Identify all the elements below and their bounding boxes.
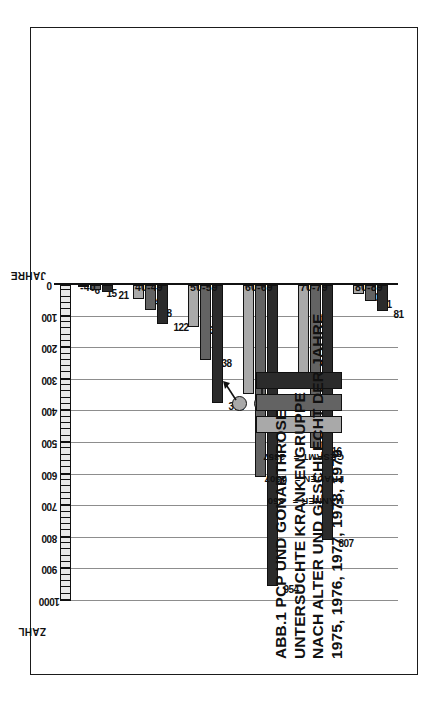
bar-leader-line: [193, 327, 194, 328]
value-axis-tick: [60, 315, 71, 317]
value-axis-tick-label: 1000: [39, 596, 60, 607]
gridline: [71, 600, 398, 601]
bar-leader-line: [217, 402, 218, 403]
gridline: [71, 569, 398, 570]
mars-arrow-icon: [222, 377, 240, 403]
value-axis-tick-label: 400: [42, 406, 58, 417]
bar-value-label: 81: [394, 308, 404, 319]
figure-title-line-1: ABB.1 PCP UND GONARTHROSE: [272, 259, 291, 659]
value-axis-tick: [60, 568, 71, 570]
value-axis-tick: [60, 600, 71, 602]
figure-title-line-4: 1975, 1976, 1977, 1978, 1979: [328, 259, 347, 659]
value-axis-tick-label: 500: [42, 438, 58, 449]
figure-title-line-3: NACH ALTER UND GESCHLECHT DER JAHRE: [309, 259, 328, 659]
bar-frauen-50-59: [200, 285, 211, 360]
bar-leader-line: [107, 291, 108, 292]
value-axis-tick-label: 200: [42, 343, 58, 354]
category-label-40-49: 40-49: [135, 281, 163, 293]
category-label--40: -40: [80, 281, 96, 293]
bar-leader-line: [138, 298, 139, 299]
bar-value-label: 122: [174, 321, 189, 332]
value-axis-tick: [60, 536, 71, 538]
category-label-50-59: 50-59: [190, 281, 218, 293]
value-axis-tick: [60, 347, 71, 349]
category-axis-title: JAHRE: [11, 270, 46, 281]
figure-title-text-1: PCP UND GONARTHROSE: [272, 410, 289, 608]
figure-title-line-2: UNTERSUCHTE KRANKENGRUPPE: [291, 259, 310, 659]
value-axis-tick-label: 100: [42, 311, 58, 322]
bar-leader-line: [382, 310, 383, 311]
bar-leader-line: [162, 323, 163, 324]
value-axis-tick: [60, 442, 71, 444]
value-axis-tick-label: 700: [42, 501, 58, 512]
value-axis-tick: [60, 505, 71, 507]
value-axis-tick: [60, 410, 71, 412]
rotated-figure-stage: 01002003004005006007008009001000 61521-4…: [36, 35, 412, 667]
bar-value-label: 21: [119, 289, 129, 300]
value-axis-tick-label: 800: [42, 532, 58, 543]
value-axis-tick-label: 900: [42, 564, 58, 575]
bar-leader-line: [205, 359, 206, 360]
value-axis-title: ZAHL: [18, 626, 46, 637]
value-axis-tick: [60, 284, 71, 286]
figure-label: ABB.1: [272, 612, 289, 659]
bar-leader-line: [150, 309, 151, 310]
value-axis-tick-label: 300: [42, 374, 58, 385]
figure-title-block: ABB.1 PCP UND GONARTHROSE UNTERSUCHTE KR…: [272, 259, 346, 659]
figure-page: 01002003004005006007008009001000 61521-4…: [0, 0, 448, 704]
value-axis-tick: [60, 378, 71, 380]
figure-border-frame: 01002003004005006007008009001000 61521-4…: [30, 27, 418, 675]
value-axis-ruler: [60, 285, 71, 601]
value-axis-tick: [60, 473, 71, 475]
value-axis-tick-label: 0: [47, 280, 52, 291]
value-axis-tick-label: 600: [42, 469, 58, 480]
